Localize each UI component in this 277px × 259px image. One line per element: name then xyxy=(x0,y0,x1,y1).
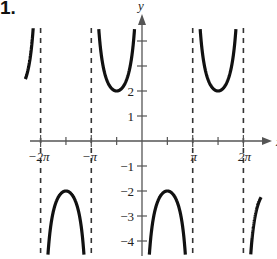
x-tick-label: −π xyxy=(82,149,98,164)
csc-branch-curve xyxy=(149,191,185,255)
csc-branch-curve xyxy=(99,29,135,91)
y-tick-label: 2 xyxy=(128,84,135,99)
csc-branch-curve xyxy=(48,191,84,255)
y-tick-label: −4 xyxy=(120,234,134,249)
y-tick-label: −3 xyxy=(120,209,134,224)
y-axis-arrow-icon xyxy=(138,14,146,25)
y-tick-label: −2 xyxy=(120,184,134,199)
x-tick-label: 2π xyxy=(238,149,252,164)
axes xyxy=(30,14,272,256)
cosecant-graph: −2π−ππ2π21−1−2−3−4yx xyxy=(0,0,277,259)
y-tick-label: −1 xyxy=(120,159,134,174)
csc-branch-curve xyxy=(251,197,261,254)
csc-branch-curve xyxy=(200,29,236,91)
csc-branch-curve xyxy=(25,28,33,79)
x-tick-label: −2π xyxy=(28,149,50,164)
y-tick-label: 1 xyxy=(128,109,135,124)
x-axis-label: x xyxy=(275,134,277,149)
x-tick-label: π xyxy=(190,149,197,164)
axis-labels: −2π−ππ2π21−1−2−3−4yx xyxy=(28,0,277,249)
x-axis-arrow-icon xyxy=(262,137,272,145)
y-axis-label: y xyxy=(136,0,144,13)
